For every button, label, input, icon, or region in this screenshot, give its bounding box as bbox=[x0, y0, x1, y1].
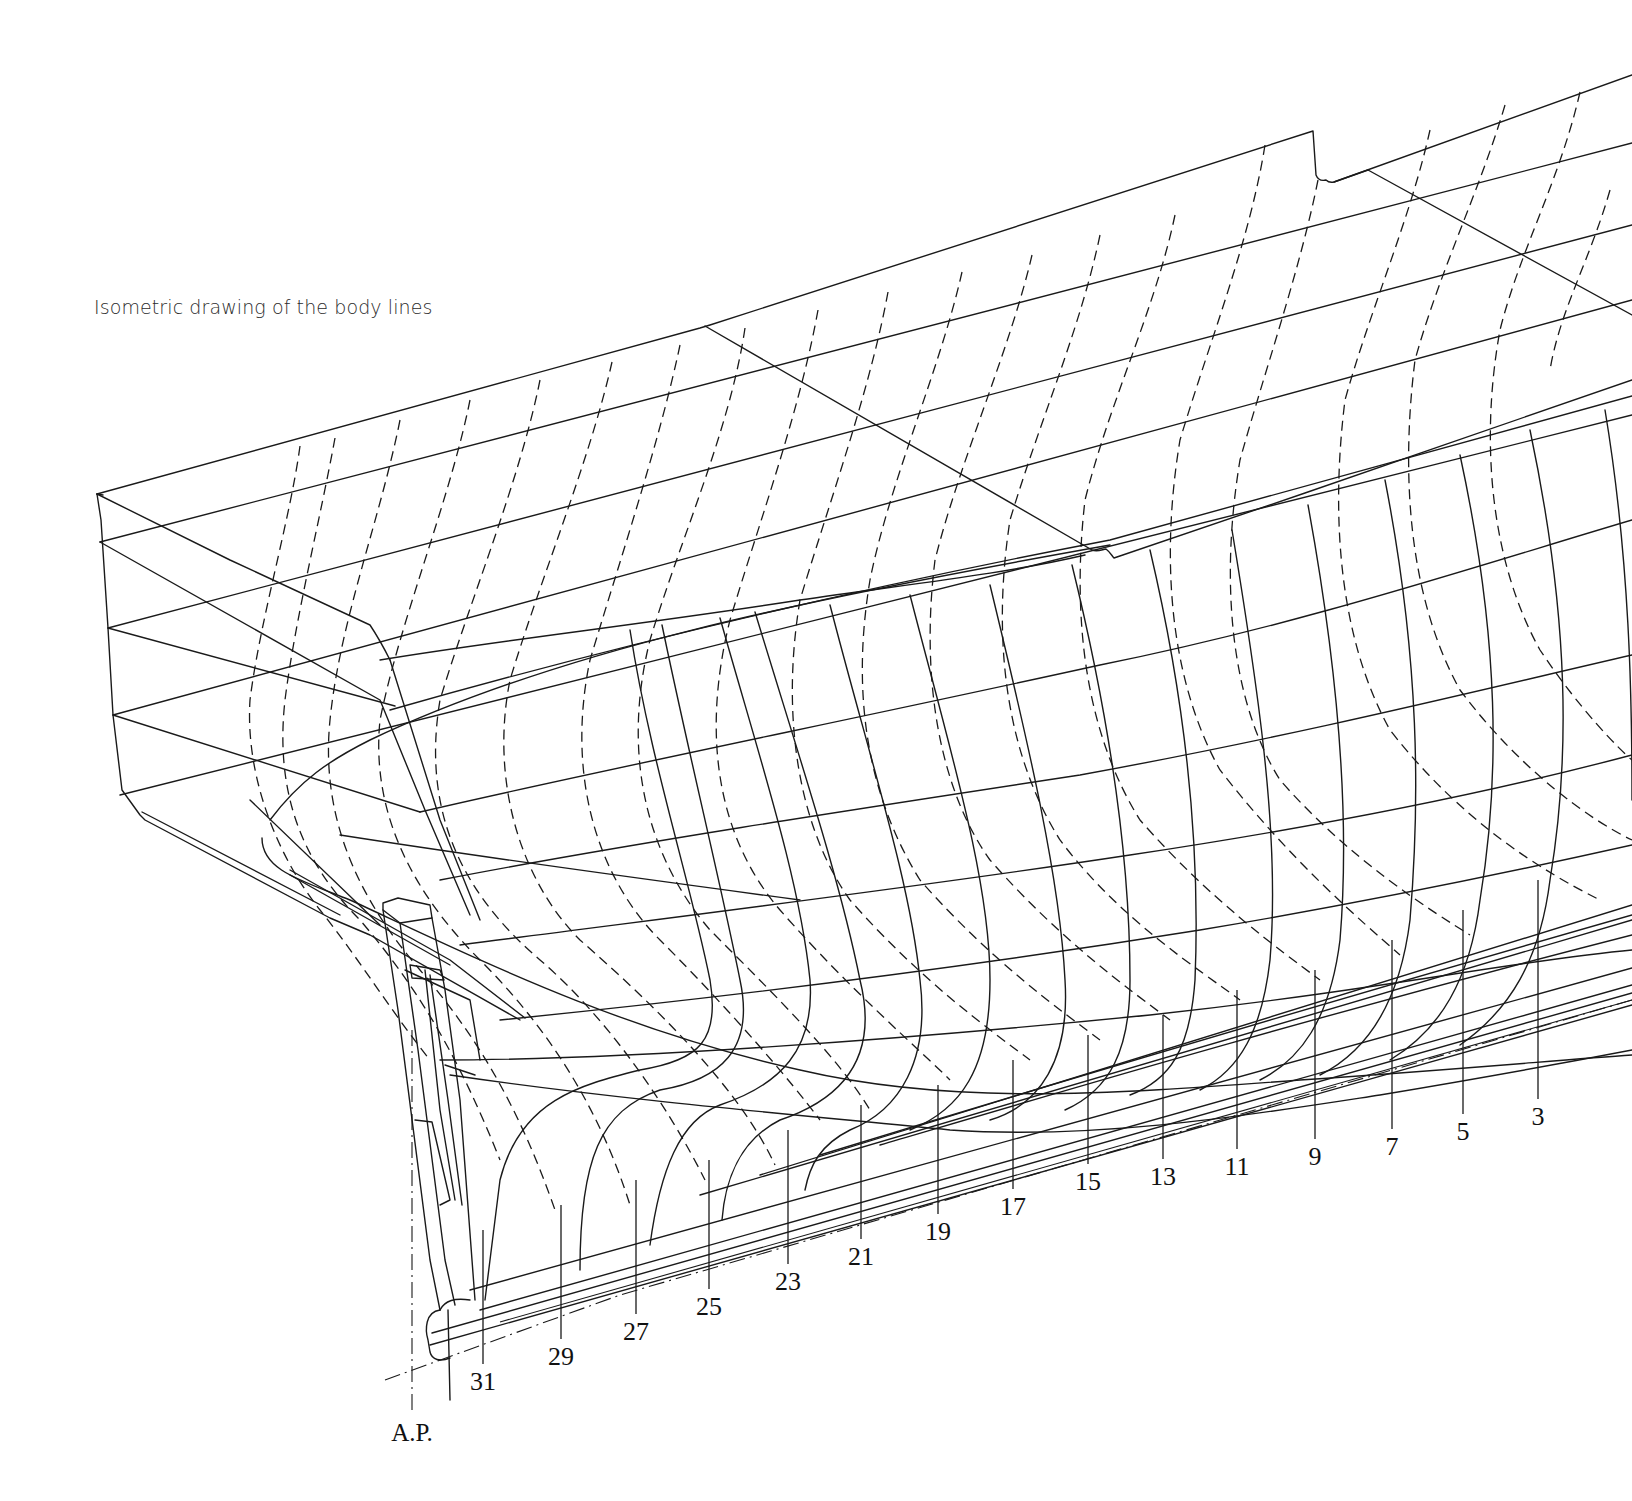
station-label: 13 bbox=[1150, 1162, 1176, 1191]
station-ticks bbox=[483, 880, 1538, 1364]
station-label: 19 bbox=[925, 1217, 951, 1246]
aft-perpendicular-label: A.P. bbox=[391, 1419, 433, 1446]
station-label: 25 bbox=[696, 1292, 722, 1321]
waterlines bbox=[262, 396, 1632, 1132]
hull-body-lines-drawing: 31292725232119171513119753 A.P. bbox=[0, 0, 1632, 1501]
station-label: 15 bbox=[1075, 1167, 1101, 1196]
station-label: 7 bbox=[1386, 1132, 1399, 1161]
station-label: 21 bbox=[848, 1242, 874, 1271]
station-label: 31 bbox=[470, 1367, 496, 1396]
station-label: 17 bbox=[1000, 1192, 1026, 1221]
keel bbox=[385, 905, 1632, 1380]
station-label: 27 bbox=[623, 1317, 649, 1346]
station-label: 29 bbox=[548, 1342, 574, 1371]
sheer-lines bbox=[97, 75, 1632, 1020]
station-label: 5 bbox=[1457, 1117, 1470, 1146]
station-lines-dashed bbox=[250, 92, 1632, 1210]
station-label: 23 bbox=[775, 1267, 801, 1296]
station-label: 9 bbox=[1309, 1142, 1322, 1171]
station-labels: 31292725232119171513119753 bbox=[470, 1102, 1545, 1396]
station-label: 3 bbox=[1532, 1102, 1545, 1131]
station-label: 11 bbox=[1224, 1152, 1249, 1181]
